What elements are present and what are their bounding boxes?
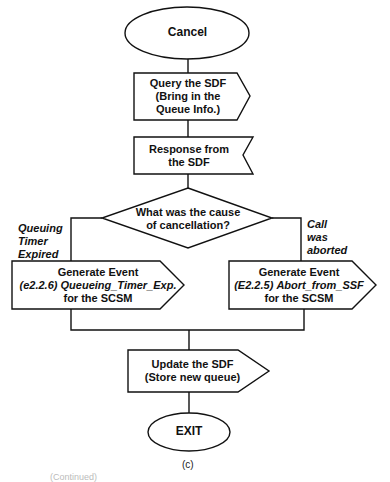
update-label: Update the SDF (Store new queue) bbox=[130, 358, 255, 384]
left-event-line1: Generate Event bbox=[12, 266, 184, 279]
figure-caption: (c) bbox=[182, 459, 194, 470]
query-line3: Queue Info.) bbox=[134, 103, 242, 116]
query-label: Query the SDF (Bring in the Queue Info.) bbox=[134, 77, 242, 116]
right-event-name: Abort_from_SSF bbox=[276, 279, 363, 291]
query-line2: (Bring in the bbox=[134, 90, 242, 103]
response-line2: the SDF bbox=[134, 156, 244, 169]
end-label: EXIT bbox=[150, 425, 228, 438]
right-event-line3: for the SCSM bbox=[229, 292, 369, 305]
left-branch-label: Queuing Timer Expired bbox=[18, 222, 63, 261]
decision-line2: of cancellation? bbox=[118, 219, 258, 232]
right-event-label: Generate Event (E2.2.5) Abort_from_SSF f… bbox=[229, 266, 369, 305]
left-event-line3: for the SCSM bbox=[12, 292, 184, 305]
left-branch-line1: Queuing bbox=[18, 222, 63, 235]
right-event-line1: Generate Event bbox=[229, 266, 369, 279]
update-line2: (Store new queue) bbox=[130, 371, 255, 384]
response-label: Response from the SDF bbox=[134, 143, 244, 169]
update-line1: Update the SDF bbox=[130, 358, 255, 371]
right-branch-line3: aborted bbox=[307, 244, 347, 257]
right-branch-line1: Call bbox=[307, 218, 347, 231]
right-branch-line2: was bbox=[307, 231, 347, 244]
right-event-code: (E2.2.5) bbox=[234, 279, 273, 291]
left-event-name: Queueing_Timer_Exp. bbox=[61, 279, 177, 291]
left-branch-line2: Timer bbox=[18, 235, 63, 248]
left-branch-line3: Expired bbox=[18, 248, 63, 261]
decision-label: What was the cause of cancellation? bbox=[118, 206, 258, 232]
footer-fragment: (Continued) bbox=[50, 472, 97, 482]
decision-line1: What was the cause bbox=[118, 206, 258, 219]
start-label: Cancel bbox=[130, 26, 245, 39]
query-line1: Query the SDF bbox=[134, 77, 242, 90]
left-event-label: Generate Event (e2.2.6) Queueing_Timer_E… bbox=[12, 266, 184, 305]
response-line1: Response from bbox=[134, 143, 244, 156]
right-branch-label: Call was aborted bbox=[307, 218, 347, 257]
left-event-code: (e2.2.6) bbox=[20, 279, 58, 291]
